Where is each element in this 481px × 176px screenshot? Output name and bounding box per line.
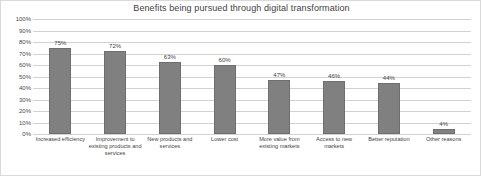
category-label: Increased efficiency — [33, 136, 88, 143]
bar-slot: 60% — [197, 19, 252, 134]
category-label: Improvement to existing products and ser… — [88, 136, 143, 157]
bar[interactable] — [268, 80, 290, 134]
y-axis-tick-label: 80% — [3, 39, 31, 45]
bar-value-label: 63% — [164, 54, 176, 60]
category-label: Lower cost — [197, 136, 252, 143]
y-axis-tick-label: 20% — [3, 108, 31, 114]
gridline — [33, 134, 471, 135]
category-label: Access to new markets — [307, 136, 362, 150]
bar-value-label: 75% — [54, 40, 66, 46]
bar-value-label: 44% — [383, 75, 395, 81]
y-axis-tick-label: 70% — [3, 51, 31, 57]
bar-value-label: 4% — [439, 121, 448, 127]
y-axis-tick-label: 10% — [3, 120, 31, 126]
category-label: New products and services — [143, 136, 198, 150]
bar-slot: 4% — [416, 19, 471, 134]
y-axis-tick-label: 0% — [3, 131, 31, 137]
y-axis-tick-label: 40% — [3, 85, 31, 91]
y-axis: 0%10%20%30%40%50%60%70%80%90%100% — [1, 19, 31, 134]
category-label: More value from existing markets — [252, 136, 307, 150]
bar-slot: 47% — [252, 19, 307, 134]
category-label: Other reasons — [416, 136, 471, 143]
bar[interactable] — [104, 51, 126, 134]
bar-slot: 63% — [143, 19, 198, 134]
bar[interactable] — [49, 48, 71, 134]
bars-layer: 75%72%63%60%47%46%44%4% — [33, 19, 471, 134]
y-axis-tick-label: 50% — [3, 74, 31, 80]
category-label: Better reputation — [362, 136, 417, 143]
y-axis-tick-label: 90% — [3, 28, 31, 34]
bar-slot: 46% — [307, 19, 362, 134]
bar-value-label: 46% — [328, 73, 340, 79]
bar[interactable] — [433, 129, 455, 134]
bar-value-label: 60% — [219, 57, 231, 63]
bar[interactable] — [323, 81, 345, 134]
bar[interactable] — [159, 62, 181, 134]
bar-slot: 72% — [88, 19, 143, 134]
chart-container: Benefits being pursued through digital t… — [0, 0, 481, 176]
y-axis-tick-label: 100% — [3, 16, 31, 22]
bar-slot: 44% — [362, 19, 417, 134]
bar-value-label: 47% — [273, 72, 285, 78]
chart-title: Benefits being pursued through digital t… — [1, 3, 481, 13]
bar[interactable] — [214, 65, 236, 134]
bar[interactable] — [378, 83, 400, 134]
category-labels: Increased efficiencyImprovement to exist… — [33, 136, 471, 174]
bar-slot: 75% — [33, 19, 88, 134]
y-axis-tick-label: 60% — [3, 62, 31, 68]
y-axis-tick-label: 30% — [3, 97, 31, 103]
bar-value-label: 72% — [109, 43, 121, 49]
